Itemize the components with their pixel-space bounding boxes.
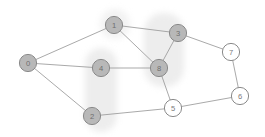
node-layer: 012345678	[19, 16, 248, 124]
edge-layer	[28, 25, 240, 116]
graph-node-circle-2[interactable]	[83, 107, 100, 124]
graph-node-7[interactable]: 7	[222, 43, 239, 60]
graph-node-circle-3[interactable]	[169, 24, 186, 41]
graph-node-5[interactable]: 5	[164, 99, 181, 116]
graph-edge-0-2[interactable]	[28, 63, 92, 116]
graph-node-8[interactable]: 8	[150, 59, 167, 76]
graph-node-1[interactable]: 1	[105, 16, 122, 33]
graph-node-circle-4[interactable]	[92, 59, 109, 76]
graph-edge-5-6[interactable]	[173, 96, 240, 108]
graph-node-circle-5[interactable]	[164, 99, 181, 116]
graph-node-circle-8[interactable]	[150, 59, 167, 76]
graph-node-0[interactable]: 0	[19, 54, 36, 71]
graph-node-circle-6[interactable]	[231, 87, 248, 104]
graph-node-3[interactable]: 3	[169, 24, 186, 41]
graph-canvas: 012345678	[0, 0, 265, 137]
graph-figure: 012345678	[0, 0, 265, 137]
graph-node-4[interactable]: 4	[92, 59, 109, 76]
graph-node-circle-7[interactable]	[222, 43, 239, 60]
graph-node-6[interactable]: 6	[231, 87, 248, 104]
graph-node-circle-1[interactable]	[105, 16, 122, 33]
graph-node-circle-0[interactable]	[19, 54, 36, 71]
graph-node-2[interactable]: 2	[83, 107, 100, 124]
